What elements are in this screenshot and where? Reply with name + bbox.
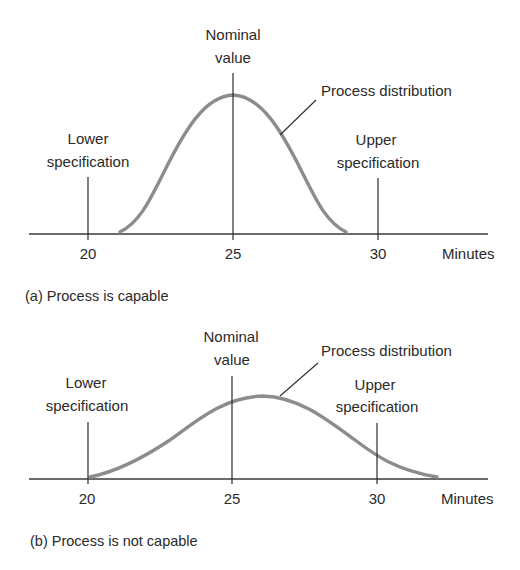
tick-30: 30: [369, 490, 386, 507]
process-distribution-label: Process distribution: [321, 82, 452, 99]
process-distribution-label: Process distribution: [321, 342, 452, 359]
tick-25: 25: [225, 245, 242, 262]
lower-spec-label-line2: specification: [47, 153, 130, 170]
tick-20: 20: [79, 490, 96, 507]
lower-spec-label-line2: specification: [46, 397, 129, 414]
process-capability-figure: Nominal value Lower specification Upper …: [0, 0, 520, 570]
distribution-leader-line: [280, 363, 318, 396]
upper-spec-label-line2: specification: [337, 154, 420, 171]
tick-20: 20: [80, 245, 97, 262]
panel-b-process-not-capable: Nominal value Lower specification Upper …: [29, 328, 494, 549]
panel-b-caption: (b) Process is not capable: [30, 533, 198, 549]
panel-a-process-capable: Nominal value Lower specification Upper …: [25, 26, 495, 304]
nominal-label-line2: value: [215, 49, 251, 66]
nominal-label-line1: Nominal: [205, 26, 260, 43]
x-unit-label: Minutes: [442, 245, 495, 262]
panel-a-caption: (a) Process is capable: [25, 288, 168, 304]
upper-spec-label-line1: Upper: [355, 376, 396, 393]
nominal-label-line2: value: [214, 351, 250, 368]
nominal-label-line1: Nominal: [203, 328, 258, 345]
tick-25: 25: [224, 490, 241, 507]
lower-spec-label-line1: Lower: [68, 130, 109, 147]
upper-spec-label-line2: specification: [336, 398, 419, 415]
distribution-leader-line: [280, 100, 316, 135]
x-unit-label: Minutes: [441, 490, 494, 507]
upper-spec-label-line1: Upper: [356, 131, 397, 148]
lower-spec-label-line1: Lower: [66, 374, 107, 391]
tick-30: 30: [370, 245, 387, 262]
